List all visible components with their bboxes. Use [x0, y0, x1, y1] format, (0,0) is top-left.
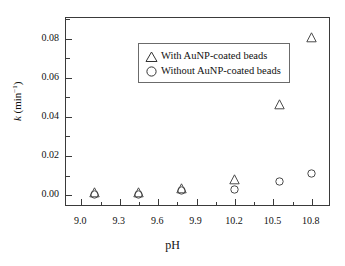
x-tick-major — [312, 199, 313, 205]
y-tick-minor — [66, 97, 70, 98]
x-tick-major — [120, 199, 121, 205]
x-tick-label: 9.3 — [99, 216, 139, 226]
x-tick-label: 10.8 — [291, 216, 331, 226]
data-point — [275, 177, 284, 186]
chart-legend: With AuNP-coated beads Without AuNP-coat… — [138, 43, 290, 83]
data-point — [274, 99, 285, 110]
y-tick-label: 0.04 — [23, 111, 59, 121]
x-tick-label: 9.6 — [137, 216, 177, 226]
y-tick-minor — [66, 176, 70, 177]
x-tick-minor — [216, 202, 217, 206]
data-point — [307, 169, 316, 178]
y-tick-major — [66, 39, 72, 40]
y-tick-label: 0.02 — [23, 150, 59, 160]
y-axis-title: k (min−1) — [11, 66, 24, 136]
y-tick-major — [66, 78, 72, 79]
legend-entry-with-beads: With AuNP-coated beads — [144, 48, 281, 63]
x-tick-major — [273, 199, 274, 205]
data-point — [177, 186, 186, 195]
x-tick-major — [197, 199, 198, 205]
triangle-marker-icon — [144, 49, 159, 62]
y-tick-label: 0.00 — [23, 189, 59, 199]
data-point — [134, 190, 143, 199]
x-tick-major — [81, 199, 82, 205]
y-tick-label: 0.06 — [23, 72, 59, 82]
y-tick-minor — [66, 58, 70, 59]
x-tick-label: 9.0 — [60, 216, 100, 226]
y-axis-title-exponent: −1 — [11, 85, 19, 92]
data-point — [229, 174, 240, 185]
legend-entry-without-beads: Without AuNP-coated beads — [144, 63, 281, 78]
y-tick-label: 0.08 — [23, 33, 59, 43]
x-tick-minor — [293, 202, 294, 206]
y-tick-minor — [66, 136, 70, 137]
chart-figure: With AuNP-coated beads Without AuNP-coat… — [0, 0, 345, 266]
x-tick-label: 9.9 — [176, 216, 216, 226]
data-point — [90, 190, 99, 199]
legend-label-without-beads: Without AuNP-coated beads — [161, 64, 281, 77]
circle-marker-icon — [144, 64, 159, 77]
x-tick-minor — [139, 202, 140, 206]
x-tick-label: 10.2 — [214, 216, 254, 226]
data-point — [306, 32, 317, 43]
plot-area: With AuNP-coated beads Without AuNP-coat… — [65, 17, 330, 206]
legend-label-with-beads: With AuNP-coated beads — [161, 49, 267, 62]
x-tick-minor — [101, 202, 102, 206]
y-axis-title-symbol: k — [11, 116, 23, 121]
x-tick-label: 10.5 — [252, 216, 292, 226]
y-tick-minor — [66, 19, 70, 20]
y-tick-major — [66, 156, 72, 157]
x-axis-title: pH — [0, 238, 345, 253]
y-axis-title-unit-close: ) — [11, 82, 23, 86]
y-axis-title-unit-open: (min — [11, 93, 23, 117]
x-tick-minor — [177, 202, 178, 206]
y-tick-major — [66, 195, 72, 196]
y-tick-major — [66, 117, 72, 118]
data-point — [230, 185, 239, 194]
x-tick-major — [235, 199, 236, 205]
x-tick-major — [158, 199, 159, 205]
x-tick-minor — [254, 202, 255, 206]
